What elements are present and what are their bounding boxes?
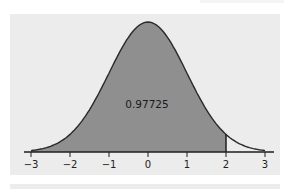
normal-distribution-chart: −3−2−10123 0.97725 xyxy=(0,0,284,189)
tick-label: 2 xyxy=(223,159,229,170)
tick-label: −2 xyxy=(63,159,78,170)
tick-label: 1 xyxy=(184,159,190,170)
tick-label: 0 xyxy=(145,159,151,170)
shaded-area xyxy=(31,22,226,152)
tick-label: −1 xyxy=(102,159,117,170)
x-axis-ticks: −3−2−10123 xyxy=(24,152,269,170)
tick-label: 3 xyxy=(262,159,268,170)
tick-label: −3 xyxy=(24,159,39,170)
area-annotation: 0.97725 xyxy=(125,98,168,110)
